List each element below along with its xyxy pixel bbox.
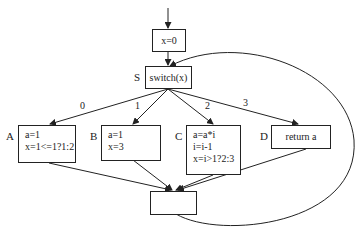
case-d-text: return a [286,131,317,143]
a-to-join-arrow [49,163,171,190]
switch-node: switch(x) [145,66,192,89]
case-c-label: C [175,130,182,142]
case-b-line: a=1 [108,129,160,141]
edge-label-0: 0 [80,100,85,111]
entry-node: x=0 [152,29,186,52]
case-c-line: a=a*i [193,129,240,141]
case-d-label: D [260,130,268,142]
case-a-node: a=1 x=1<=1?1:2 [18,125,76,163]
switch-label: S [134,71,140,83]
switch-node-text: switch(x) [150,72,188,84]
join-node [150,191,197,215]
case-b-node: a=1 x=3 [101,125,161,161]
case-a-line: x=1<=1?1:2 [25,141,75,153]
case-c-line: i=i-1 [193,141,240,153]
case-c-line: x=i>1?2:3 [193,153,240,165]
case-b-label: B [90,130,97,142]
edge-label-1: 1 [135,100,140,111]
edge-3-arrow [168,89,298,124]
edge-label-3: 3 [243,97,248,108]
c-to-join-arrow [176,175,213,190]
case-c-node: a=a*i i=i-1 x=i>1?2:3 [186,125,241,175]
edge-label-2: 2 [205,100,210,111]
case-a-label: A [6,130,14,142]
case-a-line: a=1 [25,129,75,141]
case-d-node: return a [271,125,331,149]
case-b-line: x=3 [108,141,160,153]
entry-node-text: x=0 [161,35,177,47]
